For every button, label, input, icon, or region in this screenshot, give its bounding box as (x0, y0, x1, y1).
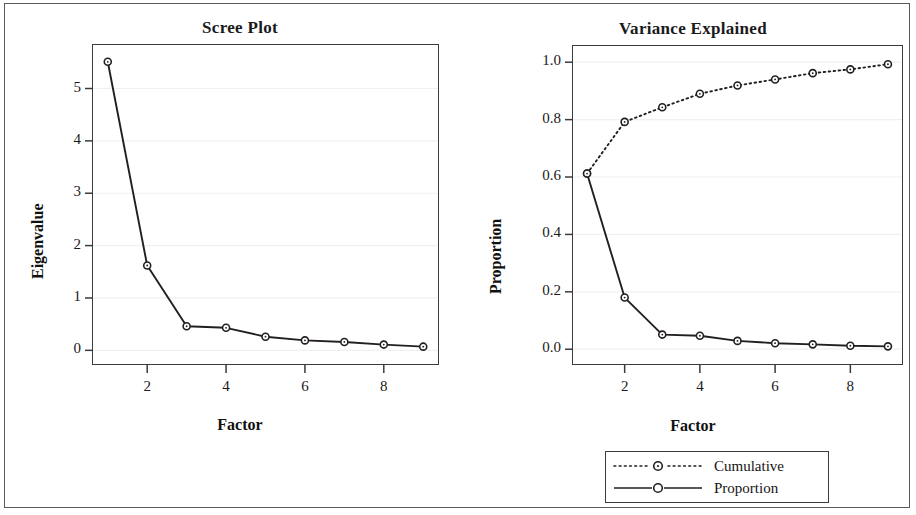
variance-explained-x-tick-label: 8 (830, 378, 870, 395)
scree-plot-x-tick-label: 6 (285, 378, 325, 395)
variance-explained-y-tick-label: 1.0 (542, 52, 561, 69)
scree-plot-y-axis-label: Eigenvalue (29, 203, 47, 279)
legend-item-cumulative: Cumulative (612, 455, 820, 477)
proportion-line-sample (612, 478, 704, 498)
scree-plot-y-tick-label: 1 (74, 288, 82, 305)
variance-explained-x-tick-label: 6 (755, 378, 795, 395)
scree-plot-x-tick-label: 4 (206, 378, 246, 395)
variance-explained-y-tick-label: 0.0 (542, 339, 561, 356)
variance-explained-y-tick-label: 0.6 (542, 167, 561, 184)
variance-explained-y-tick-label: 0.2 (542, 282, 561, 299)
variance-explained-y-tick-label: 0.4 (542, 224, 561, 241)
scree-plot-y-tick-label: 5 (74, 79, 82, 96)
cumulative-line-sample (612, 456, 704, 476)
variance-explained-y-tick-label: 0.8 (542, 110, 561, 127)
scree-plot-x-tick-label: 8 (364, 378, 404, 395)
scree-plot-y-tick-label: 4 (74, 131, 82, 148)
scree-plot-y-tick-label: 2 (74, 236, 82, 253)
variance-explained-y-axis-label: Proportion (487, 219, 505, 294)
variance-explained-x-axis-label: Factor (475, 417, 911, 435)
variance-explained-x-tick-label: 4 (680, 378, 720, 395)
scree-plot-y-tick-label: 3 (74, 183, 82, 200)
variance-explained-x-tick-label: 2 (605, 378, 645, 395)
variance-explained-panel: Variance Explained Factor Proportion 0.0… (475, 4, 911, 507)
figure-border: Scree Plot Factor Eigenvalue 0123452468 … (4, 3, 910, 508)
legend-label-proportion: Proportion (704, 480, 778, 497)
scree-plot-y-tick-label: 0 (74, 340, 82, 357)
variance-explained-legend: Cumulative Proportion (605, 451, 829, 503)
scree-plot-x-tick-label: 2 (127, 378, 167, 395)
scree-plot-x-axis-label: Factor (5, 416, 475, 434)
legend-label-cumulative: Cumulative (704, 458, 784, 475)
legend-item-proportion: Proportion (612, 477, 820, 499)
scree-plot-panel: Scree Plot Factor Eigenvalue 0123452468 (5, 4, 475, 507)
